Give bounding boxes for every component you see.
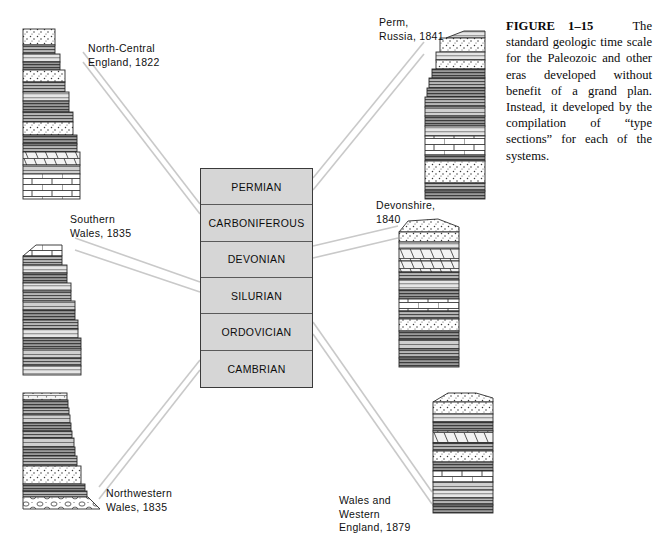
connector-southern-wales-top — [75, 238, 200, 282]
connector-devonshire-top — [313, 226, 398, 246]
section-label-north-central-england: North-Central England, 1822 — [88, 42, 160, 69]
time-scale-row-devonian[interactable]: DEVONIAN — [201, 242, 312, 278]
section-label-wales-western-england: Wales and Western England, 1879 — [339, 494, 411, 535]
section-label-devonshire: Devonshire, 1840 — [376, 199, 435, 226]
strat-column-southern-wales — [22, 244, 84, 376]
connector-north-central-england-top — [83, 52, 200, 204]
figure-caption-label: FIGURE 1–15 — [506, 19, 620, 33]
time-scale-label-devonian: DEVONIAN — [228, 253, 286, 265]
time-scale-row-ordovician[interactable]: ORDOVICIAN — [201, 314, 312, 350]
time-scale-row-cambrian[interactable]: CAMBRIAN — [201, 351, 312, 387]
time-scale-label-cambrian: CAMBRIAN — [227, 363, 285, 375]
figure-caption: FIGURE 1–15 The standard geologic time s… — [506, 18, 652, 164]
connector-southern-wales-bottom — [75, 250, 200, 292]
figure-caption-body: The standard geologic time scale for the… — [506, 19, 652, 163]
time-scale-label-carboniferous: CARBONIFEROUS — [208, 217, 304, 229]
connector-perm-russia-top — [313, 42, 424, 178]
connector-northwestern-wales-bottom — [99, 370, 200, 499]
strat-column-perm-russia — [424, 30, 486, 200]
geologic-time-scale: PERMIAN CARBONIFEROUS DEVONIAN SILURIAN … — [200, 168, 313, 388]
time-scale-row-silurian[interactable]: SILURIAN — [201, 278, 312, 314]
strat-column-northwestern-wales — [22, 392, 102, 510]
strat-column-north-central-england — [22, 28, 84, 200]
section-label-southern-wales: Southern Wales, 1835 — [70, 213, 131, 240]
figure-container: PERMIAN CARBONIFEROUS DEVONIAN SILURIAN … — [0, 0, 660, 560]
section-label-northwestern-wales: Northwestern Wales, 1835 — [106, 487, 172, 514]
time-scale-row-permian[interactable]: PERMIAN — [201, 169, 312, 205]
section-label-perm-russia: Perm, Russia, 1841 — [379, 16, 444, 43]
time-scale-label-ordovician: ORDOVICIAN — [221, 326, 291, 338]
connector-devonshire-bottom — [313, 238, 398, 258]
time-scale-row-carboniferous[interactable]: CARBONIFEROUS — [201, 205, 312, 241]
strat-column-devonshire — [398, 218, 460, 368]
connector-north-central-england-bottom — [83, 62, 200, 214]
time-scale-label-silurian: SILURIAN — [231, 290, 282, 302]
time-scale-label-permian: PERMIAN — [231, 181, 281, 193]
connector-northwestern-wales-top — [99, 360, 200, 487]
strat-column-wales-western-england — [432, 392, 494, 514]
connector-perm-russia-bottom — [313, 54, 424, 190]
